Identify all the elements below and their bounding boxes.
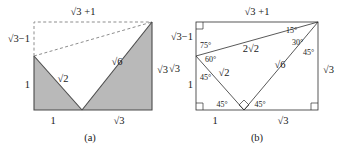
figure-a-label-left-upper: √3−1 bbox=[8, 33, 30, 44]
figure-b-label-left-upper: √3−1 bbox=[171, 31, 193, 42]
figure-b-angle-30: 30° bbox=[292, 38, 303, 47]
figure-a-label-right: √3 bbox=[157, 64, 168, 75]
figure-a-label-bottom-left: 1 bbox=[50, 115, 55, 126]
figure-a-label-sqrt2: √2 bbox=[57, 73, 68, 84]
figure-b-angle-75: 75° bbox=[200, 41, 211, 50]
geometry-figure-panel: √3 +1 √3−1 1 √3 1 √3 √2 √6 (a) √3 bbox=[0, 0, 346, 148]
figure-b-angle-15: 15° bbox=[286, 26, 297, 35]
figure-b-angle-60: 60° bbox=[205, 55, 216, 64]
figure-b-caption: (b) bbox=[251, 132, 264, 144]
figure-a-caption: (a) bbox=[84, 132, 96, 144]
figure-b-label-left-outer: √3 bbox=[169, 63, 180, 74]
figure-b-label-sqrt6: √6 bbox=[274, 59, 285, 70]
figure-b-label-bottom-left: 1 bbox=[212, 115, 217, 126]
figure-a-group: √3 +1 √3−1 1 √3 1 √3 √2 √6 (a) bbox=[8, 6, 168, 144]
figure-b-label-right: √3 bbox=[323, 64, 334, 75]
figure-b-angle-45-left: 45° bbox=[200, 73, 211, 82]
figure-b-right-angle-bottom-left bbox=[196, 103, 203, 110]
figure-b-label-top: √3 +1 bbox=[245, 6, 270, 17]
figure-b-rectangle bbox=[196, 22, 318, 110]
figure-b-group: √3 +1 √3−1 √3 1 √3 1 √3 2√2 √2 √6 75° 60… bbox=[169, 6, 334, 144]
figure-b-angle-45-top: 45° bbox=[303, 48, 314, 57]
figure-b-right-angle-bottom-right bbox=[311, 103, 318, 110]
geometry-diagram-svg: √3 +1 √3−1 1 √3 1 √3 √2 √6 (a) √3 bbox=[0, 0, 346, 148]
figure-b-angle-45-bottom-left: 45° bbox=[216, 100, 227, 109]
figure-b-label-2sqrt2: 2√2 bbox=[243, 43, 259, 54]
figure-a-label-left-lower: 1 bbox=[25, 79, 30, 90]
figure-a-label-sqrt6: √6 bbox=[111, 56, 122, 67]
figure-b-right-angle-top-left bbox=[196, 22, 203, 29]
figure-b-right-angle-apex bbox=[239, 100, 249, 110]
figure-b-label-bottom-right: √3 bbox=[277, 115, 288, 126]
figure-a-label-bottom-right: √3 bbox=[113, 115, 124, 126]
figure-a-label-top: √3 +1 bbox=[71, 6, 96, 17]
figure-b-label-sqrt2: √2 bbox=[218, 67, 229, 78]
figure-b-angle-45-bottom-right: 45° bbox=[254, 100, 265, 109]
figure-b-label-left-lower: 1 bbox=[188, 79, 193, 90]
